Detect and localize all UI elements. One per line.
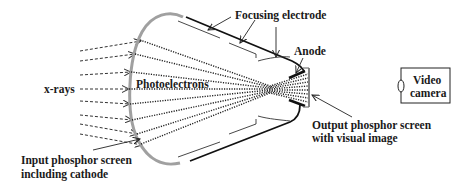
focusing-leader-2	[240, 20, 255, 43]
camera-label-line1: Video	[413, 74, 442, 86]
xray-arrow	[80, 134, 142, 145]
camera-label-line2: camera	[410, 87, 447, 99]
input-screen-label-line2: including cathode	[21, 168, 108, 181]
focusing-electrode-label: Focusing electrode	[235, 9, 326, 22]
xray-arrow	[80, 54, 135, 61]
anode-label: Anode	[294, 45, 326, 57]
xrays-label: x-rays	[44, 83, 75, 96]
anode-leader	[296, 58, 303, 73]
xray-arrow	[80, 124, 137, 134]
anode	[289, 71, 305, 106]
xray-arrow	[80, 115, 132, 120]
tube-envelope-top	[186, 17, 304, 72]
tube-envelope-bottom	[190, 105, 300, 161]
output-screen-leader	[312, 95, 352, 117]
output-screen-label-line2: with visual image	[312, 132, 398, 145]
photoelectrons-label: Photoelectrons	[136, 78, 209, 90]
xray-arrow	[80, 72, 131, 75]
focusing-leader-1	[208, 17, 231, 30]
input-screen-label-line1: Input phosphor screen	[21, 154, 132, 167]
camera-lens-icon	[398, 80, 404, 92]
output-screen-label-line1: Output phosphor screen	[312, 119, 432, 132]
xray-arrow	[80, 101, 130, 104]
image-intensifier-diagram: Video camera Focusing electrode Anode Ph…	[0, 0, 455, 184]
video-camera: Video camera	[398, 68, 450, 103]
xray-arrow	[80, 41, 141, 51]
